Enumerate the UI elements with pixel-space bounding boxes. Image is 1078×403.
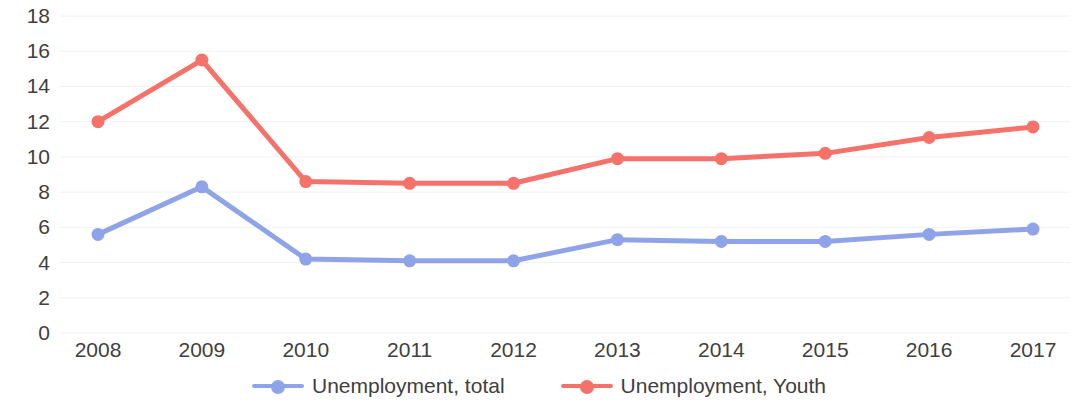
y-tick-label: 10 [4, 146, 50, 167]
y-tick-label: 2 [4, 287, 50, 308]
series-1 [92, 180, 1040, 267]
data-point[interactable] [611, 152, 624, 165]
y-tick-label: 6 [4, 216, 50, 237]
y-tick-label: 0 [4, 322, 50, 343]
x-tick-label: 2008 [53, 338, 143, 362]
y-tick-label: 12 [4, 111, 50, 132]
x-axis: 2008200920102011201220132014201520162017 [60, 338, 1070, 368]
data-point[interactable] [403, 254, 416, 267]
x-tick-label: 2010 [261, 338, 351, 362]
data-point[interactable] [1027, 223, 1040, 236]
y-tick-label: 16 [4, 40, 50, 61]
data-point[interactable] [507, 177, 520, 190]
data-point[interactable] [1027, 120, 1040, 133]
legend-label: Unemployment, Youth [621, 375, 826, 397]
x-tick-label: 2011 [365, 338, 455, 362]
data-point[interactable] [923, 131, 936, 144]
data-point[interactable] [92, 115, 105, 128]
x-tick-label: 2016 [884, 338, 974, 362]
legend-marker-icon [561, 378, 613, 394]
gridlines [60, 16, 1070, 333]
y-tick-label: 14 [4, 75, 50, 96]
line-chart: 181614121086420 200820092010201120122013… [0, 0, 1078, 403]
data-point[interactable] [299, 175, 312, 188]
data-point[interactable] [611, 233, 624, 246]
x-tick-label: 2009 [157, 338, 247, 362]
x-tick-label: 2012 [469, 338, 559, 362]
legend-item[interactable]: Unemployment, Youth [561, 375, 826, 397]
series-line [98, 187, 1033, 261]
plot-svg [60, 8, 1070, 341]
y-tick-label: 18 [4, 5, 50, 26]
x-tick-label: 2013 [572, 338, 662, 362]
legend-item[interactable]: Unemployment, total [252, 375, 505, 397]
data-point[interactable] [819, 147, 832, 160]
data-point[interactable] [819, 235, 832, 248]
data-point[interactable] [715, 152, 728, 165]
y-axis: 181614121086420 [0, 0, 50, 341]
data-point[interactable] [195, 54, 208, 67]
data-point[interactable] [92, 228, 105, 241]
legend-label: Unemployment, total [312, 375, 505, 397]
data-point[interactable] [923, 228, 936, 241]
y-tick-label: 4 [4, 252, 50, 273]
data-point[interactable] [715, 235, 728, 248]
x-tick-label: 2015 [780, 338, 870, 362]
x-tick-label: 2014 [676, 338, 766, 362]
data-point[interactable] [299, 253, 312, 266]
chart-legend: Unemployment, totalUnemployment, Youth [0, 372, 1078, 400]
data-point[interactable] [507, 254, 520, 267]
legend-marker-icon [252, 378, 304, 394]
y-tick-label: 8 [4, 181, 50, 202]
data-point[interactable] [195, 180, 208, 193]
x-tick-label: 2017 [988, 338, 1078, 362]
plot-area [60, 8, 1070, 341]
data-point[interactable] [403, 177, 416, 190]
series-layer [92, 54, 1040, 268]
